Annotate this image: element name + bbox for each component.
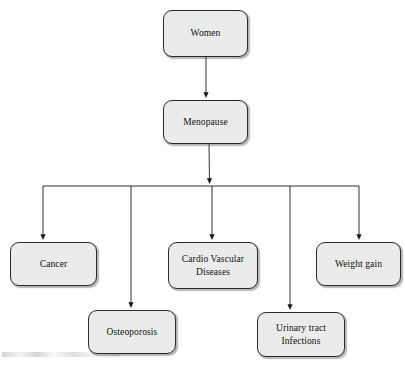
- node-menopause-label: Menopause: [164, 116, 247, 128]
- node-urinary-tract-infections-label: Urinary tract Infections: [258, 322, 344, 346]
- node-cardio-vascular-diseases[interactable]: Cardio Vascular Diseases: [168, 242, 258, 289]
- node-osteoporosis-label: Osteoporosis: [89, 326, 175, 338]
- node-osteoporosis[interactable]: Osteoporosis: [88, 310, 176, 354]
- node-weight-gain-label: Weight gain: [317, 258, 400, 270]
- node-menopause[interactable]: Menopause: [163, 100, 248, 144]
- connector-menopause-to-bus: [209, 144, 210, 181]
- node-urinary-tract-infections[interactable]: Urinary tract Infections: [257, 312, 345, 357]
- node-cardio-vascular-diseases-label: Cardio Vascular Diseases: [169, 253, 257, 277]
- node-women-label: Women: [164, 27, 247, 39]
- node-women[interactable]: Women: [163, 10, 248, 57]
- node-cancer-label: Cancer: [11, 258, 96, 270]
- node-weight-gain[interactable]: Weight gain: [316, 242, 401, 286]
- node-cancer[interactable]: Cancer: [10, 242, 97, 286]
- flowchart-diagram: Women Menopause Cancer Osteoporosis Card…: [0, 0, 405, 365]
